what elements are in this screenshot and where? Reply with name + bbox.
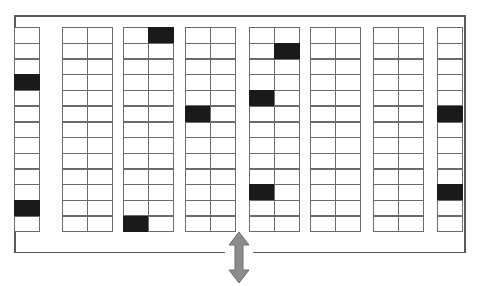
parking-stall-vacant[interactable]: [249, 122, 275, 138]
parking-stall-vacant[interactable]: [148, 153, 174, 169]
parking-stall-vacant[interactable]: [398, 169, 424, 185]
parking-stall-vacant[interactable]: [185, 153, 211, 169]
parking-stall-vacant[interactable]: [310, 184, 336, 200]
parking-stall-vacant[interactable]: [123, 27, 149, 43]
parking-stall-vacant[interactable]: [274, 216, 300, 232]
parking-stall-vacant[interactable]: [185, 200, 211, 216]
parking-bay[interactable]: [250, 28, 300, 232]
parking-stall-vacant[interactable]: [398, 59, 424, 75]
parking-bay[interactable]: [311, 28, 361, 232]
parking-stall-vacant[interactable]: [310, 43, 336, 59]
parking-stall-vacant[interactable]: [62, 74, 88, 90]
parking-stall-vacant[interactable]: [373, 169, 399, 185]
parking-stall-vacant[interactable]: [310, 200, 336, 216]
parking-stall-vacant[interactable]: [335, 153, 361, 169]
parking-stall-vacant[interactable]: [335, 106, 361, 122]
parking-stall-vacant[interactable]: [185, 59, 211, 75]
parking-stall-vacant[interactable]: [398, 90, 424, 106]
parking-stall-vacant[interactable]: [398, 27, 424, 43]
parking-stall-vacant[interactable]: [437, 137, 463, 153]
parking-stall-vacant[interactable]: [87, 27, 113, 43]
parking-stall-vacant[interactable]: [274, 122, 300, 138]
parking-stall-vacant[interactable]: [373, 43, 399, 59]
parking-bay[interactable]: [15, 28, 40, 232]
parking-bay[interactable]: [63, 28, 113, 232]
parking-stall-vacant[interactable]: [373, 74, 399, 90]
parking-stall-vacant[interactable]: [249, 137, 275, 153]
parking-stall-vacant[interactable]: [249, 153, 275, 169]
parking-stall-vacant[interactable]: [310, 216, 336, 232]
parking-stall-vacant[interactable]: [310, 169, 336, 185]
parking-stall-vacant[interactable]: [373, 106, 399, 122]
parking-stall-vacant[interactable]: [87, 59, 113, 75]
parking-stall-vacant[interactable]: [185, 90, 211, 106]
parking-stall-occupied[interactable]: [14, 200, 40, 216]
parking-stall-vacant[interactable]: [373, 137, 399, 153]
parking-stall-vacant[interactable]: [62, 59, 88, 75]
parking-stall-vacant[interactable]: [310, 122, 336, 138]
parking-stall-vacant[interactable]: [335, 184, 361, 200]
parking-stall-vacant[interactable]: [62, 27, 88, 43]
parking-stall-vacant[interactable]: [62, 184, 88, 200]
parking-stall-vacant[interactable]: [210, 216, 236, 232]
parking-stall-vacant[interactable]: [335, 27, 361, 43]
parking-stall-vacant[interactable]: [185, 184, 211, 200]
parking-stall-vacant[interactable]: [437, 43, 463, 59]
parking-stall-vacant[interactable]: [249, 59, 275, 75]
parking-stall-vacant[interactable]: [437, 169, 463, 185]
parking-stall-vacant[interactable]: [148, 43, 174, 59]
parking-stall-occupied[interactable]: [14, 74, 40, 90]
parking-stall-vacant[interactable]: [14, 216, 40, 232]
parking-stall-vacant[interactable]: [335, 137, 361, 153]
parking-stall-vacant[interactable]: [335, 216, 361, 232]
parking-stall-vacant[interactable]: [148, 74, 174, 90]
parking-stall-vacant[interactable]: [274, 184, 300, 200]
parking-stall-vacant[interactable]: [398, 184, 424, 200]
parking-stall-vacant[interactable]: [335, 90, 361, 106]
parking-stall-vacant[interactable]: [249, 216, 275, 232]
parking-stall-vacant[interactable]: [185, 43, 211, 59]
parking-stall-vacant[interactable]: [14, 184, 40, 200]
parking-stall-vacant[interactable]: [14, 90, 40, 106]
parking-stall-vacant[interactable]: [148, 200, 174, 216]
parking-stall-vacant[interactable]: [210, 184, 236, 200]
parking-stall-vacant[interactable]: [274, 200, 300, 216]
parking-stall-vacant[interactable]: [310, 153, 336, 169]
parking-stall-vacant[interactable]: [274, 74, 300, 90]
parking-stall-vacant[interactable]: [62, 122, 88, 138]
parking-stall-vacant[interactable]: [123, 90, 149, 106]
parking-stall-vacant[interactable]: [373, 59, 399, 75]
parking-stall-vacant[interactable]: [123, 74, 149, 90]
parking-stall-vacant[interactable]: [398, 106, 424, 122]
parking-stall-vacant[interactable]: [148, 106, 174, 122]
parking-stall-vacant[interactable]: [123, 59, 149, 75]
parking-stall-vacant[interactable]: [148, 137, 174, 153]
parking-stall-vacant[interactable]: [373, 90, 399, 106]
parking-bay[interactable]: [124, 28, 174, 232]
parking-stall-vacant[interactable]: [210, 59, 236, 75]
parking-stall-vacant[interactable]: [274, 169, 300, 185]
parking-stall-vacant[interactable]: [398, 137, 424, 153]
parking-stall-vacant[interactable]: [373, 122, 399, 138]
parking-stall-vacant[interactable]: [87, 43, 113, 59]
parking-stall-vacant[interactable]: [335, 74, 361, 90]
parking-stall-occupied[interactable]: [249, 90, 275, 106]
parking-stall-vacant[interactable]: [249, 74, 275, 90]
parking-stall-vacant[interactable]: [185, 27, 211, 43]
parking-stall-vacant[interactable]: [437, 153, 463, 169]
parking-stall-vacant[interactable]: [62, 169, 88, 185]
parking-stall-vacant[interactable]: [373, 153, 399, 169]
parking-stall-vacant[interactable]: [14, 122, 40, 138]
parking-stall-vacant[interactable]: [210, 27, 236, 43]
parking-stall-occupied[interactable]: [437, 106, 463, 122]
parking-stall-vacant[interactable]: [123, 200, 149, 216]
parking-stall-vacant[interactable]: [148, 122, 174, 138]
parking-stall-vacant[interactable]: [148, 216, 174, 232]
parking-stall-vacant[interactable]: [210, 137, 236, 153]
parking-stall-vacant[interactable]: [148, 59, 174, 75]
parking-stall-occupied[interactable]: [274, 43, 300, 59]
parking-stall-vacant[interactable]: [310, 74, 336, 90]
parking-stall-vacant[interactable]: [210, 169, 236, 185]
parking-stall-vacant[interactable]: [274, 106, 300, 122]
parking-stall-vacant[interactable]: [185, 169, 211, 185]
